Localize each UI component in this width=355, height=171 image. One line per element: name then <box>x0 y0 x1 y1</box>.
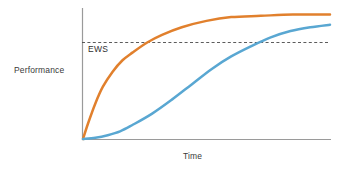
x-axis-label: Time <box>183 152 202 161</box>
y-axis-label: Performance <box>14 66 64 75</box>
performance-vs-time-chart: Performance Time EWS <box>0 0 355 171</box>
series-line-fast-adopter <box>83 14 330 139</box>
series-line-slow-adopter <box>83 25 330 139</box>
chart-plot-area <box>0 0 355 171</box>
ews-threshold-label: EWS <box>88 45 108 54</box>
